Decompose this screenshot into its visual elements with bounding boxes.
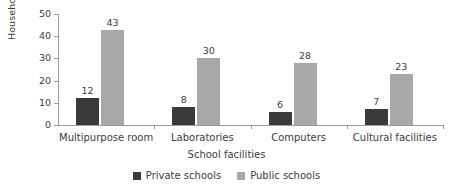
category-label: Cultural facilities	[347, 131, 443, 144]
category-label: Multipurpose room	[58, 131, 154, 144]
y-axis-tick: 10	[0, 103, 58, 104]
y-axis-tick: 50	[0, 14, 58, 15]
plot-area: 1243830628723	[58, 14, 443, 125]
y-axis-tick-label: 10	[39, 97, 51, 108]
bar-public-schools	[197, 58, 220, 125]
chart-legend: Private schoolsPublic schools	[0, 169, 453, 182]
x-axis-title: School facilities	[0, 148, 453, 161]
bar-group: 830	[154, 14, 250, 125]
bar-private-schools	[76, 98, 99, 125]
y-axis-tick: 20	[0, 81, 58, 82]
y-axis-tick-label: 30	[39, 52, 51, 63]
y-axis-tick-label: 20	[39, 75, 51, 86]
legend-swatch-icon	[237, 172, 245, 180]
y-axis-tick-label: 0	[45, 119, 51, 130]
category-label: Laboratories	[154, 131, 250, 144]
legend-label: Private schools	[146, 169, 221, 182]
x-axis-tick-mark	[443, 125, 444, 129]
x-axis-tick-mark	[347, 125, 348, 129]
x-axis-tick-mark	[154, 125, 155, 129]
bar-public-schools	[390, 74, 413, 125]
bar-value-label: 8	[166, 94, 201, 105]
y-axis-tick: 40	[0, 36, 58, 37]
bar-group: 628	[251, 14, 347, 125]
bar-public-schools	[101, 30, 124, 125]
bar-public-schools	[294, 63, 317, 125]
bar-group: 1243	[58, 14, 154, 125]
y-axis-title: Households (%)	[6, 0, 20, 52]
bar-value-label: 43	[95, 17, 130, 28]
category-label: Computers	[251, 131, 347, 144]
legend-item-private-schools: Private schools	[133, 169, 221, 182]
bar-value-label: 12	[70, 85, 105, 96]
bar-value-label: 7	[359, 96, 394, 107]
bar-value-label: 28	[288, 50, 323, 61]
legend-item-public-schools: Public schools	[237, 169, 320, 182]
y-axis-tick-label: 50	[39, 8, 51, 19]
bar-private-schools	[365, 109, 388, 125]
bar-value-label: 30	[191, 45, 226, 56]
bar-group: 723	[347, 14, 443, 125]
y-axis-tick-label: 40	[39, 30, 51, 41]
y-axis-tick: 30	[0, 58, 58, 59]
bar-chart: Households (%) 01020304050 1243830628723…	[0, 0, 453, 191]
y-axis-tick: 0	[0, 125, 58, 126]
bar-private-schools	[269, 112, 292, 125]
legend-label: Public schools	[250, 169, 320, 182]
bar-value-label: 6	[263, 99, 298, 110]
x-axis-tick-mark	[251, 125, 252, 129]
bar-value-label: 23	[384, 61, 419, 72]
bar-private-schools	[172, 107, 195, 125]
legend-swatch-icon	[133, 172, 141, 180]
